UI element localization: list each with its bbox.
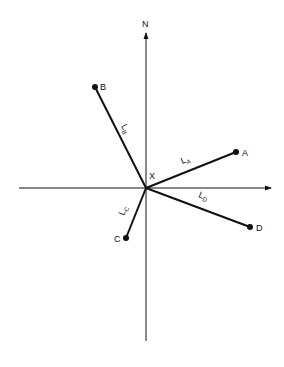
point-C [123,235,129,241]
segment-LC [126,188,146,238]
compass-diagram: N X A B C D LA LB LC LD [0,0,284,367]
svg-text:LB: LB [118,122,132,135]
origin-x-label: X [149,171,155,181]
svg-text:LD: LD [197,190,210,204]
svg-text:LC: LC [117,204,131,217]
label-D: D [256,223,263,233]
point-D [247,224,253,230]
svg-text:LA: LA [179,153,191,166]
segment-LD [146,188,250,227]
segment-LA [146,152,236,188]
point-A [233,149,239,155]
segment-label-LD: LD [197,190,210,204]
point-B [92,84,98,90]
segment-label-LA: LA [179,153,191,166]
north-label: N [142,19,149,29]
segment-LB [95,87,146,188]
label-A: A [242,148,248,158]
segment-label-LC: LC [117,204,131,217]
label-B: B [100,82,106,92]
segment-label-LB: LB [118,122,132,135]
label-C: C [114,234,121,244]
